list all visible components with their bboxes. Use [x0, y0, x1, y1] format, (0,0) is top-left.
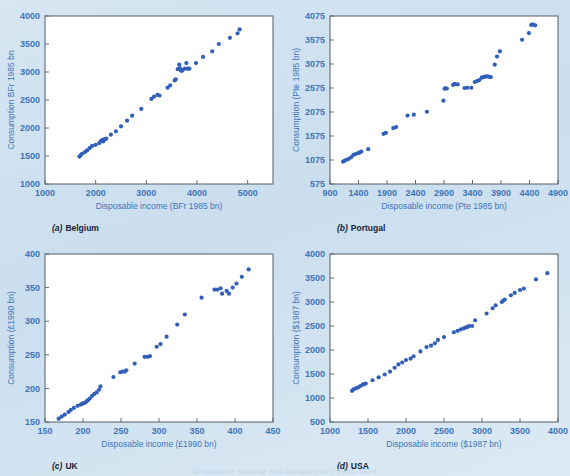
data-point: [165, 335, 169, 339]
data-point: [130, 114, 134, 118]
data-point: [98, 384, 102, 388]
data-point: [175, 322, 179, 326]
panel-caption-letter: (a): [52, 223, 63, 233]
y-axis-title: Consumption (£1990 bn): [6, 291, 16, 385]
x-axis-tick-label: 3500: [510, 426, 530, 436]
data-point: [405, 114, 409, 118]
data-point: [63, 413, 67, 417]
data-point: [184, 61, 188, 65]
scatter-svg-uk: 150200250300350400150200250300350400450D…: [0, 238, 285, 476]
y-axis-tick-label: 3000: [20, 67, 40, 77]
data-point: [452, 330, 456, 334]
y-axis-tick-label: 250: [25, 350, 40, 360]
data-point: [424, 345, 428, 349]
x-axis-tick-label: 4000: [548, 426, 568, 436]
data-point: [388, 370, 392, 374]
data-point: [545, 271, 549, 275]
x-axis-tick-label: 2400: [405, 188, 425, 198]
data-point: [109, 133, 113, 137]
data-point: [139, 107, 143, 111]
data-point: [234, 281, 238, 285]
data-point: [494, 303, 498, 307]
data-point: [220, 292, 224, 296]
data-point: [436, 338, 440, 342]
data-point: [377, 375, 381, 379]
data-point: [237, 27, 241, 31]
data-point: [418, 349, 422, 353]
data-point: [484, 311, 488, 315]
data-point: [509, 293, 513, 297]
x-axis-tick-label: 4000: [187, 188, 207, 198]
data-point: [370, 378, 374, 382]
y-axis-tick-label: 3500: [20, 39, 40, 49]
data-point: [433, 341, 437, 345]
x-axis-tick-label: 250: [113, 426, 128, 436]
x-axis-title: Disposable income (£1990 bn): [101, 439, 216, 449]
data-point: [404, 358, 408, 362]
x-axis-tick-label: 1000: [35, 188, 55, 198]
data-point: [199, 296, 203, 300]
x-axis-tick-label: 4400: [519, 188, 539, 198]
x-axis-tick-label: 3000: [136, 188, 156, 198]
data-point: [493, 63, 497, 67]
x-axis-tick-label: 1000: [320, 426, 340, 436]
data-point: [210, 49, 214, 53]
data-point: [456, 82, 460, 86]
scatter-svg-portugal: 5751075157520752575307535754075900140019…: [285, 0, 570, 238]
x-axis-tick-label: 1500: [358, 426, 378, 436]
data-point: [218, 286, 222, 290]
x-axis-tick-label: 3400: [462, 188, 482, 198]
data-point: [227, 292, 231, 296]
x-axis-tick-label: 5000: [238, 188, 258, 198]
panel-caption: (a)Belgium: [52, 223, 99, 233]
data-point: [168, 83, 172, 87]
data-point: [473, 318, 477, 322]
data-point: [491, 306, 495, 310]
x-axis-tick-label: 3900: [491, 188, 511, 198]
data-point: [114, 129, 118, 133]
chart-panel-portugal: 5751075157520752575307535754075900140019…: [285, 0, 570, 238]
y-axis-tick-label: 2500: [20, 95, 40, 105]
data-point: [157, 93, 161, 97]
y-axis-tick-label: 200: [25, 384, 40, 394]
y-axis-tick-label: 3575: [305, 35, 325, 45]
data-point: [441, 99, 445, 103]
data-point: [240, 275, 244, 279]
y-axis-tick-label: 2000: [20, 123, 40, 133]
y-axis-tick-label: 300: [25, 316, 40, 326]
chart-panel-usa: 5001000150020002500300035004000100015002…: [285, 238, 570, 476]
x-axis-tick-label: 2000: [86, 188, 106, 198]
panel-caption: (b)Portugal: [337, 223, 385, 233]
panel-caption-text: Belgium: [65, 223, 99, 233]
data-point: [187, 67, 191, 71]
x-axis-tick-label: 4900: [548, 188, 568, 198]
x-axis-tick-label: 2500: [434, 426, 454, 436]
data-point: [445, 86, 449, 90]
data-point: [498, 49, 502, 53]
data-point: [412, 354, 416, 358]
x-axis-tick-label: 900: [322, 188, 337, 198]
y-axis-tick-label: 1500: [20, 151, 40, 161]
scatter-svg-belgium: 1000150020002500300035004000100020003000…: [0, 0, 285, 238]
plot-frame: [45, 16, 273, 184]
data-point: [148, 354, 152, 358]
y-axis-tick-label: 4000: [20, 11, 40, 21]
x-axis-title: Disposable income (BFr 1985 bn): [96, 201, 223, 211]
data-point: [158, 342, 162, 346]
y-axis-tick-label: 2500: [305, 321, 325, 331]
data-point: [522, 286, 526, 290]
data-point: [359, 150, 363, 154]
data-point: [442, 335, 446, 339]
x-axis-tick-label: 1900: [377, 188, 397, 198]
y-axis-tick-label: 350: [25, 283, 40, 293]
data-point: [104, 137, 108, 141]
x-axis-tick-label: 2000: [396, 426, 416, 436]
data-point: [429, 344, 433, 348]
data-point: [503, 298, 507, 302]
data-point: [155, 345, 159, 349]
data-point: [124, 368, 128, 372]
data-point: [400, 360, 404, 364]
data-point: [383, 372, 387, 376]
data-point: [520, 38, 524, 42]
figure-canvas: 1000150020002500300035004000100020003000…: [0, 0, 570, 476]
